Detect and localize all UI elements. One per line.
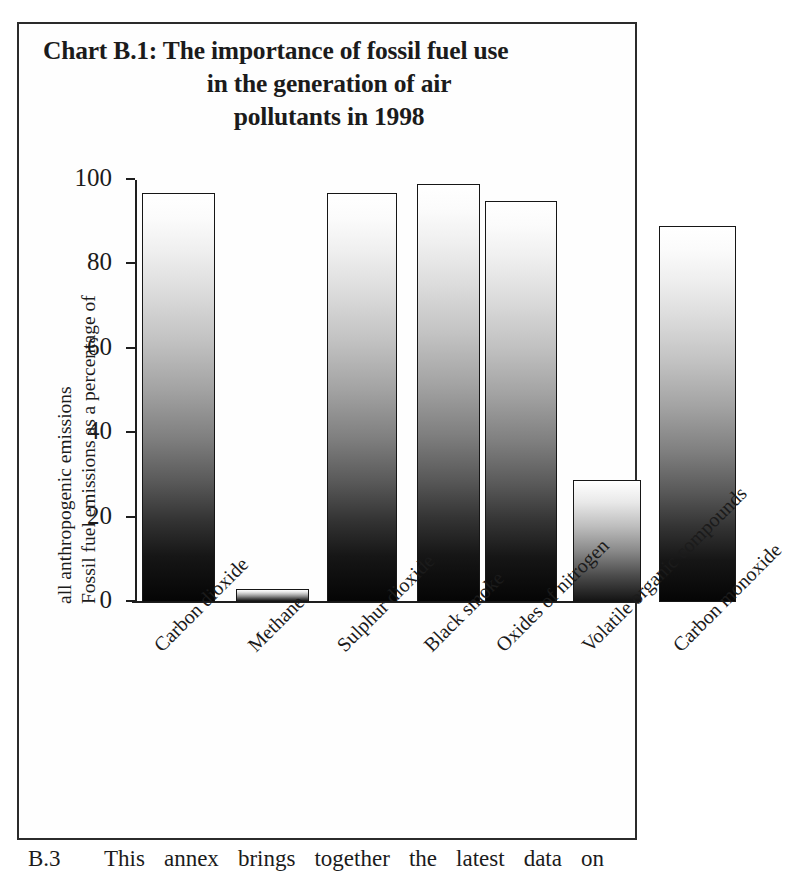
bar-series: [135, 180, 639, 602]
chart-title-line-2: in the generation of air: [29, 67, 629, 100]
chart-title-line-3: pollutants in 1998: [29, 100, 629, 133]
chart-title: Chart B.1: The importance of fossil fuel…: [29, 34, 629, 133]
paragraph-number: B.3: [28, 846, 104, 872]
figure-frame: Chart B.1: The importance of fossil fuel…: [17, 22, 637, 840]
y-axis-tick-label: 80: [87, 249, 112, 274]
y-axis-title: Fossil fuel emissions as a percentage of…: [33, 174, 93, 614]
y-axis-tick-label: 100: [75, 165, 113, 190]
x-axis-category-labels: Carbon dioxideMethaneSulphur dioxideBlac…: [135, 604, 655, 834]
y-axis-tick-label: 0: [100, 587, 113, 612]
y-axis-tick-label: 40: [87, 418, 112, 443]
bar: [485, 201, 557, 602]
paragraph-text: This annex brings together the latest da…: [104, 846, 604, 872]
y-axis-tick: 20: [126, 516, 135, 518]
plot-area: 020406080100: [135, 180, 639, 602]
y-axis-tick: 60: [126, 347, 135, 349]
y-axis-tick-label: 60: [87, 334, 112, 359]
bar: [142, 193, 215, 602]
body-paragraph: B.3This annex brings together the latest…: [28, 846, 628, 872]
chart-title-line-1: Chart B.1: The importance of fossil fuel…: [29, 34, 629, 67]
y-axis-tick-label: 20: [87, 503, 112, 528]
bar: [417, 184, 480, 602]
bar: [573, 480, 641, 602]
bar: [327, 193, 397, 602]
y-axis-tick: 80: [126, 262, 135, 264]
y-axis-tick: 100: [126, 178, 135, 180]
y-axis-tick: 40: [126, 431, 135, 433]
y-axis-title-line-2: all anthropogenic emissions: [55, 386, 75, 604]
y-axis-tick: 0: [126, 600, 135, 602]
